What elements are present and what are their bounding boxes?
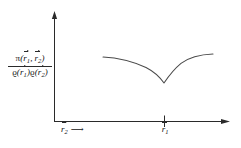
r2-vector-numerator: r <box>34 54 38 63</box>
r1-vector-denominator: r <box>20 68 24 77</box>
r2-subscript-axis: 2 <box>65 128 68 135</box>
r-symbol: r <box>38 67 42 77</box>
right-arrow-icon: ⟶ <box>71 125 83 134</box>
y-axis-label: π(r1, r2) ϱ(r1)ϱ(r2) <box>8 54 52 79</box>
r2-vector-denominator: r <box>38 68 42 77</box>
r1-subscript-tick: 1 <box>165 128 168 135</box>
r-symbol: r <box>34 53 38 63</box>
correlation-curve <box>103 54 213 83</box>
figure-container: π(r1, r2) ϱ(r1)ϱ(r2) r2⟶ r1 <box>0 0 241 148</box>
y-axis-label-numerator: π(r1, r2) <box>8 54 52 66</box>
r-symbol: r <box>61 124 65 134</box>
r-symbol: r <box>162 124 166 134</box>
y-axis-label-denominator: ϱ(r1)ϱ(r2) <box>8 67 52 79</box>
x-axis-label: r2⟶ <box>61 125 83 135</box>
r1-vector-numerator: r <box>23 54 27 63</box>
y-axis-arrowhead <box>52 11 57 19</box>
den2-close-paren: ) <box>45 67 48 77</box>
r2-vector-axis: r <box>61 125 65 134</box>
x-axis-arrowhead <box>221 119 230 124</box>
r-symbol: r <box>23 53 27 63</box>
x-axis-tick-label: r1 <box>155 125 175 135</box>
numerator-close-paren: ) <box>41 53 44 63</box>
r1-vector-tick: r <box>162 125 166 134</box>
r-symbol: r <box>20 67 24 77</box>
